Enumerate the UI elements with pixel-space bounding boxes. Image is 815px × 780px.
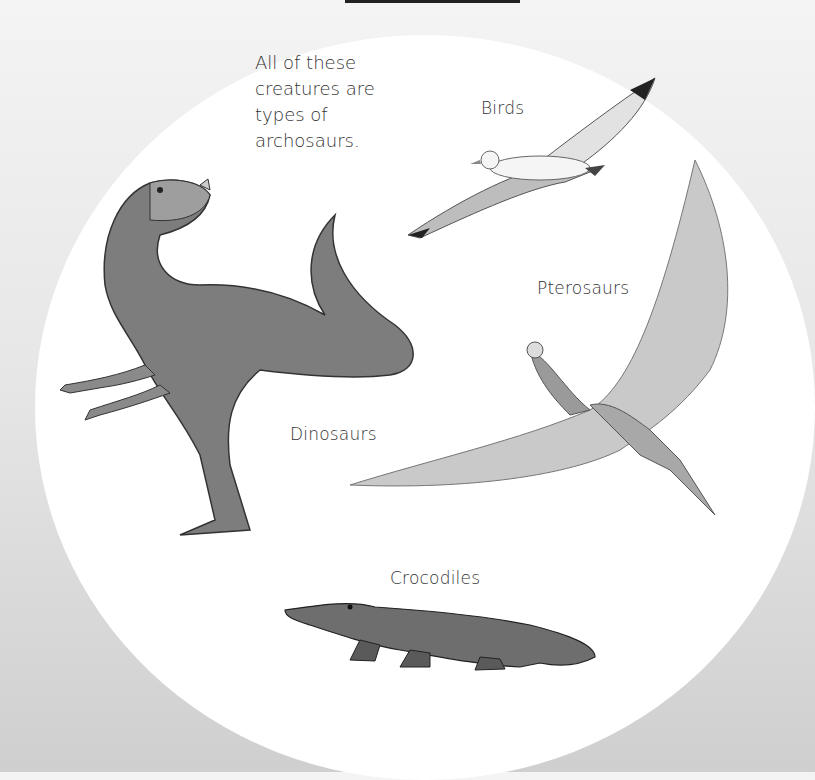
top-bar bbox=[345, 0, 520, 3]
crocodile-illustration bbox=[280, 595, 600, 675]
dinosaur-illustration bbox=[50, 175, 430, 545]
intro-line: archosaurs. bbox=[255, 128, 375, 154]
intro-text: All of these creatures are types of arch… bbox=[255, 50, 375, 154]
intro-line: types of bbox=[255, 102, 375, 128]
intro-line: creatures are bbox=[255, 76, 375, 102]
label-crocodiles: Crocodiles bbox=[390, 568, 480, 588]
intro-line: All of these bbox=[255, 50, 375, 76]
